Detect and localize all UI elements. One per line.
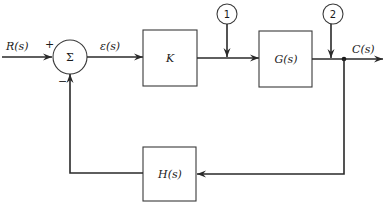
output-signal: C(s) [312,43,383,61]
block-diagram: R(s) Σ + − ε(s) K 1 G(s) C(s) 2 [0,0,385,204]
plant-block: G(s) [259,31,312,87]
sigma-symbol: Σ [66,51,74,64]
plant-label: G(s) [274,53,297,66]
plus-sign: + [45,38,54,51]
controller-block: K [143,30,197,86]
disturbance-point-2: 2 [323,4,343,58]
output-label: C(s) [352,43,375,56]
controller-label: K [165,52,175,65]
disturbance-2-label: 2 [330,9,336,20]
summing-junction: Σ + − [45,38,87,88]
disturbance-point-1: 1 [217,4,237,57]
error-signal: ε(s) [87,40,143,57]
input-label: R(s) [5,40,29,53]
feedback-arrow-to-sum [70,74,143,173]
error-label: ε(s) [100,40,120,53]
minus-sign: − [58,75,67,88]
disturbance-1-label: 1 [224,9,230,20]
feedback-block: H(s) [143,147,196,201]
feedback-label: H(s) [157,168,182,181]
